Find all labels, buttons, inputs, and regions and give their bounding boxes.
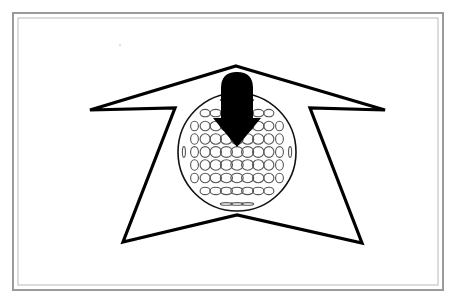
golf-ball-star-figure xyxy=(0,0,463,308)
dust-speck-icon xyxy=(119,44,121,46)
figure-canvas xyxy=(0,0,463,308)
